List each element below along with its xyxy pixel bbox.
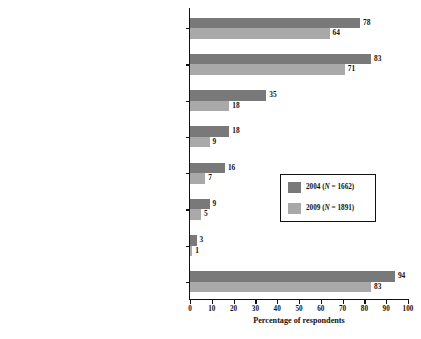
plot-area: Free drug samples7864Gifts (e.g., food, … [190, 10, 408, 300]
bar-value-label: 64 [333, 28, 340, 39]
x-axis-tick-label: 70 [339, 305, 346, 313]
category-row: Payments for consulting189 [190, 119, 408, 155]
x-axis-tick-label: 60 [317, 305, 324, 313]
legend: 2004 (N = 1662) 2009 (N = 1891) [280, 174, 376, 222]
bar-2009 [190, 246, 192, 257]
bar-2009 [190, 209, 201, 220]
x-axis-tick-label: 100 [403, 305, 414, 313]
category-row: Any of the above relationships9483 [190, 264, 408, 300]
bar-value-label: 9 [213, 199, 217, 210]
legend-label-2009: 2009 (N = 1891) [306, 204, 354, 212]
x-axis-tick-label: 10 [208, 305, 215, 313]
x-axis-tick [299, 300, 300, 304]
bar-2004 [190, 54, 371, 65]
bar-value-label: 18 [232, 126, 239, 137]
bar-value-label: 78 [363, 18, 370, 29]
category-row: Gifts (e.g., food, beverages, and entert… [190, 46, 408, 82]
legend-swatch-2009 [288, 203, 301, 214]
x-axis-tick-label: 90 [383, 305, 390, 313]
bar-value-label: 94 [398, 271, 405, 282]
bar-value-label: 5 [204, 209, 208, 220]
category-row: Free drug samples7864 [190, 10, 408, 46]
x-axis-tick [277, 300, 278, 304]
bar-2009 [190, 28, 330, 39]
x-axis-tick [343, 300, 344, 304]
bar-2004 [190, 163, 225, 174]
bar-2009 [190, 282, 371, 293]
x-axis-tick-label: 0 [188, 305, 192, 313]
category-row: Payments for enrolling patients in clini… [190, 228, 408, 264]
category-row: Reimbursements (e.g., travel, food, lodg… [190, 83, 408, 119]
x-axis-tick [364, 300, 365, 304]
bar-2004 [190, 126, 229, 137]
legend-item-2004: 2004 (N = 1662) [288, 180, 354, 194]
x-axis-tick-label: 40 [274, 305, 281, 313]
bar-2004 [190, 199, 210, 210]
bar-2009 [190, 137, 210, 148]
bar-2004 [190, 90, 266, 101]
x-axis-title: Percentage of respondents [190, 316, 408, 325]
x-axis-tick [190, 300, 191, 304]
bar-value-label: 9 [213, 137, 217, 148]
bar-2004 [190, 18, 360, 29]
bar-value-label: 3 [200, 235, 204, 246]
legend-label-2004: 2004 (N = 1662) [306, 183, 354, 191]
legend-swatch-2004 [288, 182, 301, 193]
x-axis-tick-label: 50 [295, 305, 302, 313]
x-axis-tick [234, 300, 235, 304]
x-axis-tick [212, 300, 213, 304]
bar-value-label: 1 [195, 246, 199, 257]
x-axis-tick [408, 300, 409, 304]
x-axis-tick [321, 300, 322, 304]
x-axis-tick-label: 30 [252, 305, 259, 313]
bar-value-label: 83 [374, 282, 381, 293]
bar-value-label: 83 [374, 54, 381, 65]
x-axis-tick-label: 20 [230, 305, 237, 313]
legend-item-2009: 2009 (N = 1891) [288, 201, 354, 215]
x-axis-tick [386, 300, 387, 304]
bar-value-label: 18 [232, 101, 239, 112]
bar-chart: Free drug samples7864Gifts (e.g., food, … [0, 0, 421, 339]
bar-2004 [190, 235, 197, 246]
bar-value-label: 71 [348, 64, 355, 75]
x-axis-tick-label: 80 [361, 305, 368, 313]
bar-value-label: 35 [269, 90, 276, 101]
bar-value-label: 16 [228, 163, 235, 174]
bar-2009 [190, 64, 345, 75]
bar-2009 [190, 173, 205, 184]
bar-2004 [190, 271, 395, 282]
x-axis-tick [255, 300, 256, 304]
bar-value-label: 7 [208, 173, 212, 184]
bar-2009 [190, 101, 229, 112]
